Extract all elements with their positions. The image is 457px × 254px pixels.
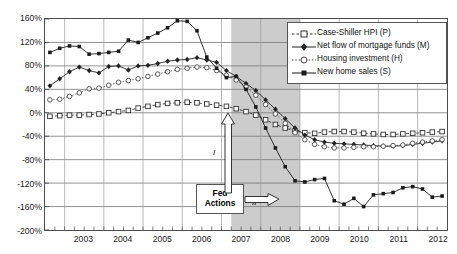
data-point xyxy=(204,102,209,107)
data-point xyxy=(381,192,385,196)
data-point xyxy=(410,141,415,146)
data-point xyxy=(57,97,62,102)
legend-item-net-flow[interactable]: Net flow of mortgage funds (M) xyxy=(291,40,442,53)
data-point xyxy=(48,83,53,88)
data-point xyxy=(273,122,278,127)
data-point xyxy=(401,186,405,190)
data-point xyxy=(371,144,376,149)
data-point xyxy=(322,139,327,144)
data-point xyxy=(352,145,357,150)
data-point xyxy=(107,51,111,55)
data-point xyxy=(312,131,317,136)
data-point xyxy=(87,86,92,91)
data-point xyxy=(116,63,121,68)
data-point xyxy=(303,137,308,142)
data-point xyxy=(332,199,336,203)
data-point xyxy=(361,144,366,149)
data-point xyxy=(401,132,406,137)
data-point xyxy=(106,110,111,115)
data-point xyxy=(136,77,141,82)
data-point xyxy=(57,113,62,118)
data-point xyxy=(273,112,278,117)
data-point xyxy=(176,19,180,23)
data-point xyxy=(77,113,82,118)
data-point xyxy=(352,197,356,201)
data-point xyxy=(155,102,160,107)
data-point xyxy=(352,130,357,135)
data-point xyxy=(48,98,53,103)
y-tick-label: 40% xyxy=(0,85,42,94)
x-tick-label: 2003 xyxy=(74,234,93,244)
data-point xyxy=(195,65,200,70)
legend-item-housing-investment[interactable]: Housing investment (H) xyxy=(291,53,442,66)
y-tick-label: -160% xyxy=(0,203,42,212)
data-point xyxy=(391,143,396,148)
data-point xyxy=(322,144,327,149)
y-tick-label: -40% xyxy=(0,132,42,141)
x-tick-label: 2006 xyxy=(192,234,211,244)
data-point xyxy=(126,67,131,72)
data-point xyxy=(97,112,102,117)
data-point xyxy=(391,132,396,137)
data-point xyxy=(97,70,102,75)
data-point xyxy=(116,80,121,85)
data-point xyxy=(175,101,180,106)
data-point xyxy=(97,52,101,56)
data-point xyxy=(244,88,248,92)
data-point xyxy=(372,193,376,197)
data-point xyxy=(87,68,92,73)
data-point xyxy=(421,187,425,191)
arrow-ii-label: II xyxy=(252,198,256,207)
data-point xyxy=(97,86,102,91)
data-point xyxy=(411,185,415,189)
legend-item-new-home-sales[interactable]: New home sales (S) xyxy=(291,66,442,79)
y-tick-label: 160% xyxy=(0,14,42,23)
data-point xyxy=(342,202,346,206)
data-point xyxy=(146,63,151,68)
data-point xyxy=(165,101,170,106)
data-point xyxy=(195,29,199,33)
data-point xyxy=(185,57,190,62)
legend-label: Housing investment (H) xyxy=(317,55,403,63)
x-tick-label: 2011 xyxy=(389,234,407,244)
data-point xyxy=(254,113,259,118)
data-point xyxy=(244,109,249,114)
data-point xyxy=(106,64,111,69)
data-point xyxy=(87,52,91,56)
data-point xyxy=(254,93,259,98)
x-tick-label: 2012 xyxy=(429,234,448,244)
y-axis-tick-labels: 160%120%80%40%0%-40%-80%-120%-160%-200% xyxy=(0,0,42,254)
data-point xyxy=(332,146,337,151)
data-point xyxy=(67,94,72,99)
data-point xyxy=(87,112,92,117)
data-point xyxy=(371,132,376,137)
data-point xyxy=(254,105,258,109)
data-point xyxy=(155,72,160,77)
fed-actions-annotation: Fed Actions xyxy=(196,184,244,214)
data-point xyxy=(146,36,150,40)
data-point xyxy=(420,130,425,135)
data-point xyxy=(106,83,111,88)
data-point xyxy=(185,66,190,71)
data-point xyxy=(58,47,62,51)
data-point xyxy=(185,20,189,24)
x-tick-label: 2010 xyxy=(350,234,369,244)
data-point xyxy=(215,66,219,70)
data-point xyxy=(166,26,170,30)
data-point xyxy=(48,51,52,55)
data-point xyxy=(362,205,366,209)
data-point xyxy=(430,139,435,144)
data-point xyxy=(283,121,288,126)
fed-actions-line2: Actions xyxy=(205,199,236,209)
data-point xyxy=(224,104,229,109)
data-point xyxy=(165,69,170,74)
data-point xyxy=(431,195,435,199)
data-point xyxy=(185,100,190,105)
filled-square-solid-icon xyxy=(291,67,317,79)
data-point xyxy=(263,102,268,107)
legend-label: Case-Shiller HPI (P) xyxy=(317,29,391,37)
data-point xyxy=(175,57,180,62)
data-point xyxy=(410,131,415,136)
data-point xyxy=(312,137,317,142)
legend-item-case-shiller[interactable]: Case-Shiller HPI (P) xyxy=(291,27,442,40)
